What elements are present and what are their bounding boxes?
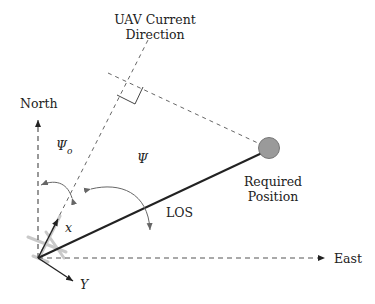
uav-direction-label-line1: UAV Current: [100, 12, 210, 27]
psi-arc: [91, 187, 150, 230]
required-position-label-line2: Position: [238, 189, 308, 204]
body-x-arrow: [38, 219, 58, 258]
north-label: North: [20, 96, 58, 111]
perpendicular-line: [108, 73, 260, 144]
psi-o-subscript: o: [67, 146, 72, 156]
required-position-label-line1: Required: [238, 174, 308, 189]
psi-o-label: Ψo: [56, 138, 72, 159]
uav-geometry-diagram: UAV Current Direction North Ψo Ψ LOS Req…: [0, 0, 375, 304]
los-line: [38, 153, 262, 258]
required-position-marker: [259, 138, 280, 159]
right-angle-marker: [117, 87, 143, 104]
psi-label: Ψ: [137, 151, 148, 166]
aircraft-icon: [28, 216, 66, 262]
psi-o-arc: [41, 182, 72, 198]
required-position-label: Required Position: [238, 174, 308, 204]
los-label: LOS: [166, 205, 193, 220]
uav-direction-label-line2: Direction: [100, 27, 210, 42]
psi-o-symbol: Ψ: [56, 138, 67, 153]
body-x-label: x: [65, 220, 72, 235]
uav-direction-label: UAV Current Direction: [100, 12, 210, 42]
body-y-label: Y: [80, 277, 88, 292]
east-label: East: [334, 251, 362, 266]
body-y-arrow: [38, 258, 73, 281]
